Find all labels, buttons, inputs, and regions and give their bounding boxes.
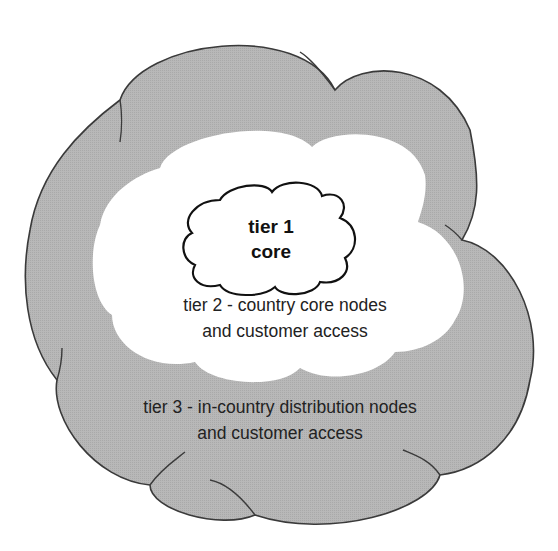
tier2-label-line1: tier 2 - country core nodes <box>140 292 430 318</box>
tier-clouds-diagram <box>0 0 558 551</box>
tier3-label: tier 3 - in-country distribution nodes a… <box>90 394 470 446</box>
tier2-label: tier 2 - country core nodes and customer… <box>140 292 430 344</box>
tier1-label-line1: tier 1 <box>185 214 357 239</box>
tier1-label-line2: core <box>185 239 357 264</box>
tier1-label: tier 1 core <box>185 214 357 264</box>
tier3-label-line1: tier 3 - in-country distribution nodes <box>90 394 470 420</box>
tier2-label-line2: and customer access <box>140 318 430 344</box>
tier3-label-line2: and customer access <box>90 420 470 446</box>
